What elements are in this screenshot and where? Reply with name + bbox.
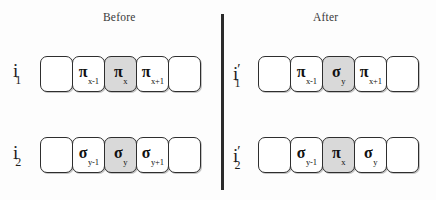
gene-cell: πx bbox=[104, 56, 137, 92]
gene-symbol-index: x-1 bbox=[88, 76, 99, 86]
gene-symbol-index: x bbox=[341, 157, 345, 167]
gene-symbol-glyph: π bbox=[79, 63, 88, 80]
gene-symbol: πx bbox=[332, 145, 345, 164]
gene-symbol-glyph: σ bbox=[364, 144, 373, 161]
gene-symbol: πx-1 bbox=[297, 64, 317, 83]
gene-symbol-glyph: σ bbox=[332, 63, 341, 80]
chromosome-strip-after-i2: σy-1πxσy bbox=[258, 137, 418, 173]
gene-cell-empty bbox=[40, 137, 73, 173]
panel-title-before: Before bbox=[103, 11, 136, 23]
panel-title-after: After bbox=[313, 11, 338, 23]
chromosome-strip-before-i1: πx-1πxπx+1 bbox=[40, 56, 200, 92]
gene-cell: σy bbox=[354, 137, 387, 173]
gene-symbol-glyph: π bbox=[360, 63, 369, 80]
gene-cell: σy-1 bbox=[72, 137, 105, 173]
gene-symbol: σy-1 bbox=[297, 145, 316, 164]
gene-symbol: πx-1 bbox=[79, 64, 99, 83]
gene-cell-empty bbox=[168, 56, 201, 92]
gene-cell: πx+1 bbox=[354, 56, 387, 92]
gene-symbol: σy+1 bbox=[142, 145, 163, 164]
gene-symbol-index: y+1 bbox=[151, 157, 164, 167]
row-label-i1: i1 bbox=[13, 61, 24, 84]
gene-symbol: σy bbox=[332, 64, 345, 83]
row-label-subscript: 2 bbox=[235, 158, 241, 172]
gene-cell: πx bbox=[322, 137, 355, 173]
chromosome-strip-after-i1: πx-1σyπx+1 bbox=[258, 56, 418, 92]
gene-cell: σy+1 bbox=[136, 137, 169, 173]
gene-cell: σy bbox=[322, 56, 355, 92]
gene-cell: πx+1 bbox=[136, 56, 169, 92]
row-label-i2-prime: i′2 bbox=[233, 143, 248, 169]
chromosome-strip-before-i2: σy-1σyσy+1 bbox=[40, 137, 200, 173]
gene-symbol-glyph: π bbox=[142, 63, 151, 80]
gene-cell-empty bbox=[258, 137, 291, 173]
gene-symbol: πx bbox=[114, 64, 127, 83]
gene-symbol-index: x+1 bbox=[369, 76, 382, 86]
gene-symbol-glyph: π bbox=[332, 144, 341, 161]
gene-symbol-index: y-1 bbox=[88, 157, 99, 167]
gene-symbol-glyph: σ bbox=[297, 144, 306, 161]
gene-symbol-glyph: π bbox=[297, 63, 306, 80]
gene-symbol: σy bbox=[364, 145, 377, 164]
row-label-subscript: 2 bbox=[15, 155, 21, 169]
gene-symbol: σy bbox=[114, 145, 127, 164]
gene-symbol-index: y bbox=[123, 157, 127, 167]
gene-cell-empty bbox=[386, 56, 419, 92]
gene-symbol: πx+1 bbox=[360, 64, 381, 83]
gene-symbol-index: x+1 bbox=[151, 76, 164, 86]
gene-symbol-glyph: σ bbox=[79, 144, 88, 161]
gene-cell-empty bbox=[168, 137, 201, 173]
gene-symbol: πx+1 bbox=[142, 64, 163, 83]
gene-symbol-index: y-1 bbox=[306, 157, 317, 167]
gene-cell-empty bbox=[386, 137, 419, 173]
gene-cell: σy bbox=[104, 137, 137, 173]
gene-symbol-glyph: σ bbox=[114, 144, 123, 161]
gene-symbol-glyph: π bbox=[114, 63, 123, 80]
panel-divider bbox=[221, 14, 224, 190]
gene-symbol-index: y bbox=[341, 76, 345, 86]
gene-cell: σy-1 bbox=[290, 137, 323, 173]
gene-cell: πx-1 bbox=[290, 56, 323, 92]
gene-symbol: σy-1 bbox=[79, 145, 98, 164]
row-label-subscript: 1 bbox=[235, 76, 241, 90]
gene-cell-empty bbox=[258, 56, 291, 92]
row-label-subscript: 1 bbox=[15, 73, 21, 87]
crossover-diagram: Before After i1 i2 i′1 i′2 πx-1πxπx+1 σy… bbox=[0, 0, 436, 200]
row-label-prime: ′ bbox=[237, 143, 240, 159]
gene-symbol-index: y bbox=[373, 157, 377, 167]
row-label-i2: i2 bbox=[13, 143, 24, 166]
row-label-prime: ′ bbox=[237, 61, 240, 77]
gene-symbol-glyph: σ bbox=[142, 144, 151, 161]
gene-symbol-index: x-1 bbox=[306, 76, 317, 86]
gene-cell-empty bbox=[40, 56, 73, 92]
gene-cell: πx-1 bbox=[72, 56, 105, 92]
gene-symbol-index: x bbox=[123, 76, 127, 86]
row-label-i1-prime: i′1 bbox=[233, 61, 248, 87]
